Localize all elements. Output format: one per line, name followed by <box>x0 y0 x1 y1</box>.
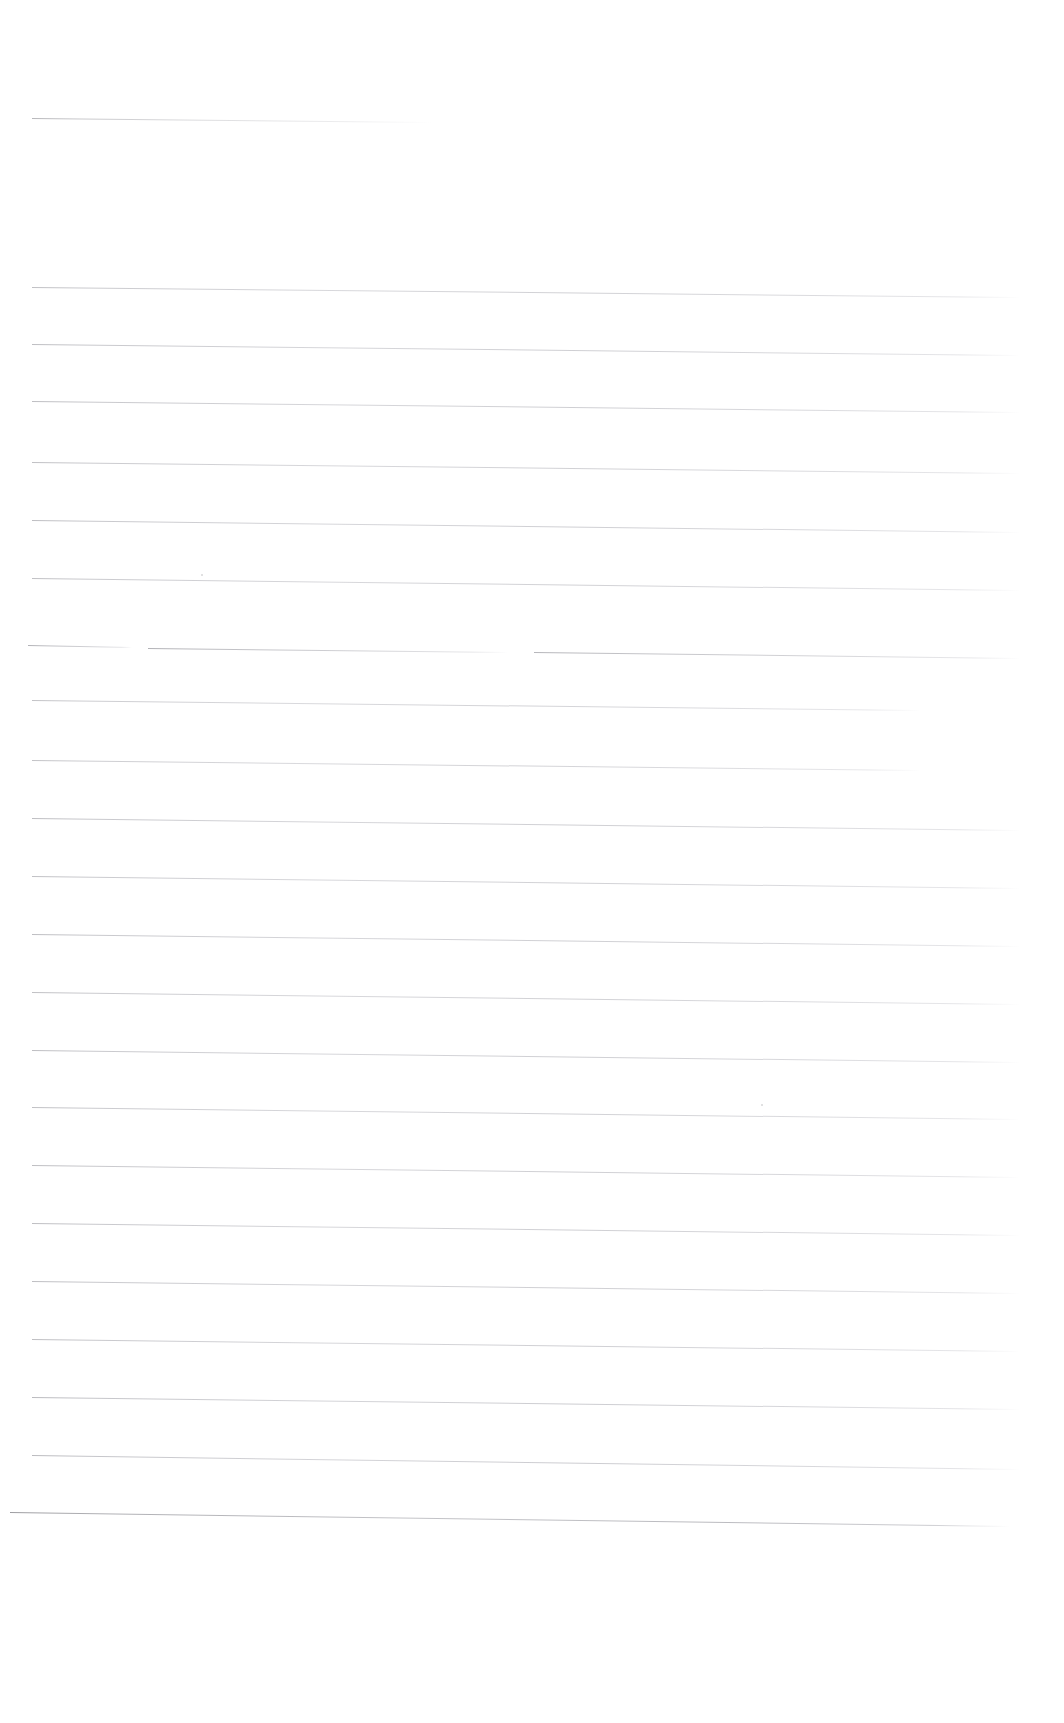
ruled-line-ink <box>148 648 508 653</box>
ruled-line-ink <box>32 520 1020 533</box>
ruled-line <box>32 1223 1020 1236</box>
ruled-line <box>32 462 1020 474</box>
ruled-line-ink <box>32 760 920 771</box>
ruled-line <box>32 344 1020 356</box>
ruled-line-ink <box>32 1107 1020 1120</box>
ruled-line <box>148 648 508 653</box>
ruled-line <box>32 1455 1020 1470</box>
ruled-line <box>32 520 1020 533</box>
ruled-line <box>534 652 1020 659</box>
ruled-line <box>32 1165 1020 1178</box>
ruled-line-ink <box>32 1223 1020 1236</box>
ruled-line <box>32 992 1020 1005</box>
ruled-line-ink <box>10 1512 1010 1527</box>
ruled-line <box>32 876 1020 889</box>
ruled-line <box>32 1107 1020 1120</box>
ruled-line-ink <box>32 1397 1020 1410</box>
ruled-line <box>10 1512 1010 1527</box>
ruled-line <box>32 1339 1020 1352</box>
scan-speck-left <box>201 574 203 576</box>
ruled-line-ink <box>32 344 1020 356</box>
ruled-line-ink <box>32 1281 1020 1294</box>
ruled-line-ink <box>32 118 432 123</box>
ruled-line <box>32 1281 1020 1294</box>
ruled-line <box>32 818 1020 831</box>
ruled-line-ink <box>32 876 1020 889</box>
ruled-line <box>32 118 432 123</box>
ruled-line-ink <box>32 578 1020 591</box>
ruled-line-ink <box>32 401 1020 413</box>
ruled-line-ink <box>32 1339 1020 1352</box>
ruled-line <box>32 401 1020 413</box>
ruled-line <box>32 700 920 711</box>
ruled-line-ink <box>32 1165 1020 1178</box>
ruled-line-ink <box>32 934 1020 947</box>
ruled-line-ink <box>32 1050 1020 1063</box>
ruled-line <box>32 1397 1020 1410</box>
scan-speck-right <box>761 1104 763 1106</box>
ruled-line <box>32 760 920 771</box>
ruled-line-ink <box>32 1455 1020 1470</box>
ruled-line-ink <box>32 818 1020 831</box>
ruled-line-ink <box>32 992 1020 1005</box>
ruled-line-ink <box>32 700 920 711</box>
ruled-line <box>32 578 1020 591</box>
ruled-line <box>32 287 1020 298</box>
scanned-page: Blank ruled sheet (scan) <box>0 0 1064 1723</box>
ruled-line-ink <box>28 645 132 648</box>
ruled-line <box>28 645 132 648</box>
ruled-line <box>32 934 1020 947</box>
ruled-line-ink <box>32 462 1020 474</box>
ruled-line <box>32 1050 1020 1063</box>
ruled-line-ink <box>534 652 1020 659</box>
ruled-line-ink <box>32 287 1020 298</box>
